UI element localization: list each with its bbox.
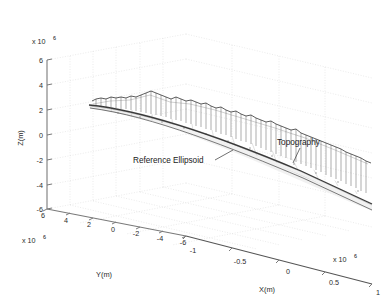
x-exponent-power: 6 [354,253,357,259]
grid-floor [70,187,350,249]
x-tick-label: 0 [286,267,290,276]
x-exponent-prefix: x 10 [333,255,347,264]
y-tick-label: 0 [111,225,115,234]
x-tick-label: 0.5 [329,278,339,287]
z-exponent-power: 6 [53,35,56,41]
y-tick-label: 6 [41,211,45,220]
z-tick-label: 0 [39,131,43,140]
z-tick-label: 6 [39,56,43,65]
plot-3d-axes: 6 4 2 0 -2 -4 -6 Z(m) x 10 6 6 4 2 0 [0,0,383,303]
topography-leader-line [293,148,300,163]
y-axis-exponent: x 10 6 [22,234,46,245]
y-tick-label: 4 [64,216,68,225]
topography-profile [92,91,371,164]
z-axis-tick-labels: 6 4 2 0 -2 -4 -6 [37,56,43,214]
x-tick-label: -1 [190,246,196,255]
z-tick-label: -4 [37,181,43,190]
x-axis-tick-labels: -1 -0.5 0 0.5 1 [190,246,380,297]
z-axis-exponent: x 10 6 [32,35,56,46]
z-tick-label: -2 [37,156,43,165]
annotation-topography: Topography [277,138,321,163]
topography-label: Topography [277,138,321,147]
annotation-reference-ellipsoid: Reference Ellipsoid [133,150,233,165]
z-tick-label: 2 [39,106,43,115]
y-tick-label: 2 [87,220,91,229]
reference-ellipsoid-label: Reference Ellipsoid [133,156,204,165]
figure-canvas: 6 4 2 0 -2 -4 -6 Z(m) x 10 6 6 4 2 0 [0,0,383,303]
x-tick-label: -0.5 [234,257,246,266]
axis-lines [47,60,372,284]
x-axis-title: X(m) [259,285,275,294]
z-axis-ticks [47,59,52,209]
x-tick-label: 1 [376,288,380,297]
reference-ellipsoid-surface [89,104,372,214]
reference-ellipsoid-leader-line [215,150,233,160]
z-exponent-prefix: x 10 [32,37,46,46]
y-tick-label: -2 [133,229,139,238]
y-exponent-power: 6 [43,234,46,240]
z-axis-title: Z(m) [16,130,25,146]
x-axis-exponent: x 10 6 [333,253,357,264]
y-tick-label: -6 [180,238,186,247]
y-exponent-prefix: x 10 [22,236,36,245]
z-tick-label: 4 [39,81,43,90]
y-axis-title: Y(m) [96,270,112,279]
y-tick-label: -4 [157,234,163,243]
